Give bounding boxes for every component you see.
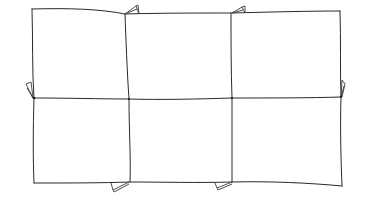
horizontal-divider — [34, 97, 341, 99]
frame-right-edge — [340, 11, 342, 186]
junction-left — [33, 97, 36, 100]
vertical-divider-1 — [125, 14, 130, 182]
fold-tab-top-1 — [125, 5, 139, 14]
fold-tab-top-2 — [232, 6, 245, 13]
grid-sketch — [0, 0, 370, 206]
junction-right — [340, 96, 342, 98]
dividers — [34, 13, 341, 182]
frame-top-edge — [32, 9, 340, 14]
fold-tab-bottom-2 — [215, 182, 232, 190]
fold-tab-left — [26, 82, 33, 98]
fold-tab-bottom-1 — [111, 182, 129, 192]
sketch-canvas — [0, 0, 370, 206]
frame-bottom-edge — [34, 182, 342, 186]
junction-center-left — [128, 98, 130, 100]
junction-center-right — [231, 97, 233, 99]
fold-tab-right — [341, 80, 345, 97]
